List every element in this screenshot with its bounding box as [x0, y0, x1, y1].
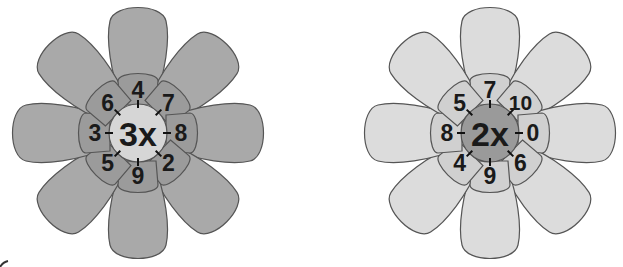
multiplier-label: 2x — [471, 115, 509, 153]
petal-number: 5 — [101, 150, 114, 176]
flower-3x: 478295363x — [13, 8, 264, 259]
corner-arc-decoration — [0, 261, 8, 267]
petal-number: 6 — [101, 90, 114, 116]
petal-number: 8 — [441, 120, 454, 146]
petal-number: 4 — [453, 150, 466, 176]
petal-number: 8 — [175, 120, 188, 146]
petal-number: 10 — [509, 91, 532, 114]
petal-number: 6 — [514, 150, 527, 176]
flower-canvas: 478295363x 7100694852x — [0, 0, 623, 267]
petal-number: 9 — [484, 163, 497, 189]
petal-number: 2 — [162, 150, 175, 176]
petal-number: 9 — [132, 163, 145, 189]
petal-number: 5 — [453, 90, 466, 116]
petal-number: 3 — [89, 120, 102, 146]
multiplier-label: 3x — [119, 115, 157, 153]
petal-number: 4 — [132, 77, 145, 103]
petal-number: 0 — [527, 120, 540, 146]
petal-number: 7 — [162, 90, 175, 116]
petal-number: 7 — [484, 77, 497, 103]
flower-2x: 7100694852x — [365, 8, 616, 259]
